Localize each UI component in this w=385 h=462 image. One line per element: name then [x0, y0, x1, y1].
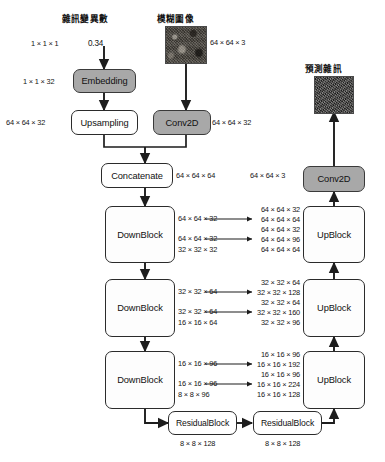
dim-up2-3: 32 × 32 × 160	[228, 308, 300, 318]
block-upblock-2-label: UpBlock	[317, 303, 351, 313]
dim-upsampling-out: 64 × 64 × 32	[6, 118, 45, 128]
dim-residual2-out: 8 × 8 × 128	[265, 439, 300, 449]
block-concatenate-label: Concatenate	[111, 171, 163, 181]
block-residualblock-1-label: ResidualBlock	[176, 418, 229, 428]
dim-up1-1: 64 × 64 × 64	[228, 215, 300, 225]
dim-down1-skip-a: 64 × 64 × 32	[178, 214, 217, 224]
block-upsampling[interactable]: Upsampling	[71, 110, 138, 135]
dim-up3-2: 16 × 16 × 96	[228, 370, 300, 380]
block-residualblock-2[interactable]: ResidualBlock	[253, 411, 322, 435]
block-residualblock-1[interactable]: ResidualBlock	[168, 411, 237, 435]
block-upblock-3[interactable]: UpBlock	[303, 351, 365, 409]
dim-conv2d-in-out: 64 × 64 × 32	[212, 118, 251, 128]
block-downblock-1[interactable]: DownBlock	[105, 206, 175, 263]
block-conv2d-input[interactable]: Conv2D	[153, 110, 211, 135]
block-residualblock-2-label: ResidualBlock	[261, 418, 314, 428]
dim-up1-0: 64 × 64 × 32	[228, 205, 300, 215]
predicted-noise-thumbnail	[314, 76, 354, 114]
block-downblock-3-label: DownBlock	[117, 375, 163, 385]
dim-up2-0: 32 × 32 × 64	[228, 278, 300, 288]
block-conv2d-output-label: Conv2D	[318, 174, 351, 184]
block-embedding-label: Embedding	[81, 76, 127, 86]
caption-predicted-noise: 預測雜訊	[305, 62, 342, 74]
dim-embedding-out: 1 × 1 × 32	[23, 77, 54, 87]
scalar-value: 0.34	[88, 39, 103, 49]
dim-image-in: 64 × 64 × 3	[210, 38, 245, 48]
dim-down2-out: 16 × 16 × 64	[178, 318, 217, 328]
block-downblock-1-label: DownBlock	[117, 230, 163, 240]
caption-noise-variance: 雜訊變異數	[62, 12, 108, 24]
block-downblock-3[interactable]: DownBlock	[105, 351, 175, 409]
blurry-image-thumbnail	[165, 26, 207, 64]
dim-down3-skip-a: 16 × 16 × 96	[178, 359, 217, 369]
dim-residual1-out: 8 × 8 × 128	[180, 439, 215, 449]
block-conv2d-output[interactable]: Conv2D	[303, 166, 365, 192]
block-embedding[interactable]: Embedding	[73, 69, 136, 93]
block-downblock-2[interactable]: DownBlock	[105, 279, 175, 337]
block-upblock-1[interactable]: UpBlock	[303, 206, 365, 263]
dim-up3-0: 16 × 16 × 96	[228, 350, 300, 360]
dim-up2-2: 32 × 32 × 64	[228, 298, 300, 308]
dim-down2-skip-b: 32 × 32 × 64	[178, 307, 217, 317]
dim-up2-4: 32 × 32 × 96	[228, 318, 300, 328]
dim-down3-skip-b: 16 × 16 × 96	[178, 379, 217, 389]
dim-up3-4: 16 × 16 × 128	[228, 390, 300, 400]
caption-blurry-image: 模糊圖像	[157, 12, 194, 24]
dim-up1-2: 64 × 64 × 32	[228, 225, 300, 235]
block-concatenate[interactable]: Concatenate	[101, 163, 173, 188]
dim-input-scalar: 1 × 1 × 1	[31, 39, 58, 49]
block-upsampling-label: Upsampling	[80, 118, 128, 128]
dim-down2-skip-a: 32 × 32 × 64	[178, 287, 217, 297]
block-upblock-2[interactable]: UpBlock	[303, 279, 365, 337]
architecture-diagram: 雜訊變異數 模糊圖像 預測雜訊 1 × 1 × 1 0.34 1 × 1 × 3…	[0, 0, 385, 462]
dim-up1-3: 64 × 64 × 96	[228, 235, 300, 245]
block-upblock-1-label: UpBlock	[317, 230, 351, 240]
block-conv2d-input-label: Conv2D	[166, 118, 199, 128]
dim-down1-out: 32 × 32 × 32	[178, 245, 217, 255]
block-downblock-2-label: DownBlock	[117, 303, 163, 313]
block-upblock-3-label: UpBlock	[317, 375, 351, 385]
dim-up3-1: 16 × 16 × 192	[228, 360, 300, 370]
dim-down3-out: 8 × 8 × 96	[178, 390, 209, 400]
dim-concatenate-out: 64 × 64 × 64	[176, 171, 215, 181]
dim-up3-3: 16 × 16 × 224	[228, 380, 300, 390]
dim-conv2d-out-in: 64 × 64 × 3	[250, 171, 285, 181]
dim-down1-skip-b: 64 × 64 × 32	[178, 234, 217, 244]
dim-up1-4: 64 × 64 × 64	[228, 245, 300, 255]
dim-up2-1: 32 × 32 × 128	[228, 288, 300, 298]
